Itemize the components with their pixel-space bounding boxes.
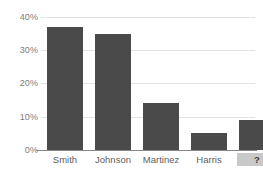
y-tick-label-40: 40%: [4, 13, 38, 22]
bar-smith: [47, 27, 83, 150]
bar-harris: [191, 133, 227, 150]
bar-martinez: [143, 103, 179, 150]
x-axis: Smith Johnson Martinez Harris ?: [41, 153, 255, 171]
bar-chart: 40% 30% 20% 10% 0% Smith Johnson: [0, 0, 263, 177]
y-tick-label-30: 30%: [4, 46, 38, 55]
x-label-johnson: Johnson: [89, 153, 137, 166]
bar-johnson: [95, 34, 131, 150]
x-label-unknown: ?: [237, 153, 263, 166]
y-tick-label-10: 10%: [4, 113, 38, 122]
y-tick-label-0: 0%: [4, 146, 38, 155]
bar-slot-smith: [47, 17, 83, 150]
bar-slot-martinez: [143, 17, 179, 150]
x-axis-line: [36, 150, 257, 151]
bar-slot-unknown: [239, 17, 263, 150]
x-label-smith: Smith: [41, 153, 89, 166]
y-tick-label-20: 20%: [4, 79, 38, 88]
bar-slot-harris: [191, 17, 227, 150]
bar-unknown: [239, 120, 263, 150]
x-label-martinez: Martinez: [137, 153, 185, 166]
bar-series: [41, 17, 255, 150]
bar-slot-johnson: [95, 17, 131, 150]
x-label-harris: Harris: [185, 153, 233, 166]
y-axis: 40% 30% 20% 10% 0%: [0, 0, 38, 177]
